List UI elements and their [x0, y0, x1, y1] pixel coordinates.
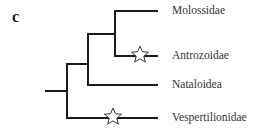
taxon-label-nataloidea: Nataloidea — [172, 78, 222, 90]
taxon-label-molossidae: Molossidae — [172, 4, 225, 16]
taxon-label-antrozoidae: Antrozoidae — [172, 49, 229, 61]
star-icon — [132, 46, 149, 62]
taxon-label-vespertilionidae: Vespertilionidae — [172, 111, 247, 123]
star-icon — [105, 108, 122, 124]
